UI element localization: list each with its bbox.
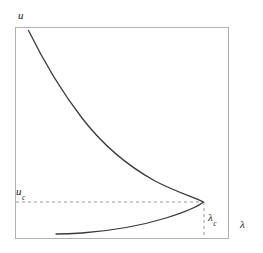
x-axis-label: λ [240,219,245,230]
critical-u-label: uc [16,186,25,200]
fold-curve [29,31,204,235]
critical-u-base: u [16,185,22,197]
figure-root: u uc λc λ [0,0,263,253]
critical-lambda-subscript: c [213,219,216,228]
bifurcation-plot [0,0,263,253]
critical-u-subscript: c [22,193,25,202]
y-axis-label: u [18,10,24,21]
critical-lambda-label: λc [208,212,216,226]
